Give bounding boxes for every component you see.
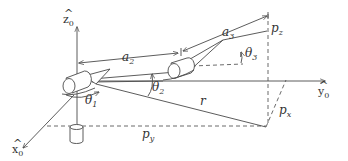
a3-label: a3 <box>222 25 234 41</box>
px-label: px <box>279 103 292 119</box>
projection-lines <box>47 14 286 127</box>
elbow-joint <box>163 58 194 80</box>
robot-arm-diagram: z0 ^ y0 ^ x0 ^ a2 a3 θ1 θ2 θ3 pz px py r <box>0 0 348 161</box>
x0-hat: ^ <box>13 137 22 150</box>
theta1-label: θ1 <box>85 93 97 109</box>
theta3-arc <box>241 52 242 63</box>
theta3-reference-dashed-line <box>192 64 243 66</box>
y0-hat: ^ <box>319 79 328 92</box>
r-line <box>96 84 266 127</box>
theta2-label: θ2 <box>152 80 164 96</box>
base-cylinder <box>70 125 83 144</box>
z0-hat: ^ <box>64 7 73 20</box>
x0-axis <box>23 95 74 148</box>
a2-label: a2 <box>122 50 134 66</box>
pz-label: pz <box>271 21 284 37</box>
py-label: py <box>142 127 155 143</box>
r-label: r <box>200 94 207 108</box>
theta3-label: θ3 <box>245 46 257 62</box>
